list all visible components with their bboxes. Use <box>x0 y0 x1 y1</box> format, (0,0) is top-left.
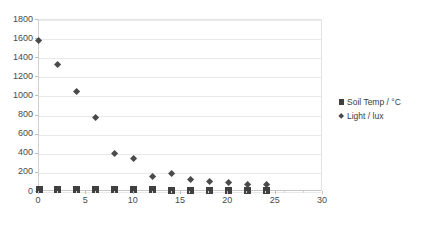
x-axis-tick-mark <box>227 191 228 194</box>
y-axis-tick-label: 800 <box>0 110 33 119</box>
data-point <box>92 186 99 193</box>
data-point <box>168 170 175 177</box>
chart-legend: Soil Temp / °CLight / lux <box>336 96 424 124</box>
x-axis-tick-mark <box>38 191 39 194</box>
x-axis-tick-label: 0 <box>23 196 53 205</box>
x-axis-tick-mark <box>133 191 134 194</box>
data-point <box>206 187 213 194</box>
legend-marker-swatch <box>338 113 344 119</box>
y-axis-tick-label: 1600 <box>0 34 33 43</box>
x-axis-tick-mark <box>275 191 276 194</box>
data-point <box>130 186 137 193</box>
diamond-marker-icon <box>336 114 347 118</box>
x-axis-tick-mark <box>85 191 86 194</box>
gridline <box>39 20 321 21</box>
data-point <box>206 178 213 185</box>
plot-area <box>38 19 322 191</box>
data-point <box>36 186 43 193</box>
scatter-chart: 020040060080010001200140016001800 051015… <box>0 0 425 227</box>
gridline <box>39 96 321 97</box>
x-axis-minor-tick <box>303 191 304 193</box>
gridline <box>39 39 321 40</box>
y-axis-tick-label: 1000 <box>0 91 33 100</box>
data-point <box>187 176 194 183</box>
x-axis-minor-tick <box>152 191 153 193</box>
x-axis-tick-mark <box>322 191 323 194</box>
legend-item[interactable]: Light / lux <box>336 110 424 122</box>
data-point <box>168 187 175 194</box>
x-axis-tick-label: 5 <box>70 196 100 205</box>
data-point <box>149 186 156 193</box>
x-axis-minor-tick <box>171 191 172 193</box>
x-axis-minor-tick <box>265 191 266 193</box>
y-axis-tick-label: 1200 <box>0 72 33 81</box>
x-axis-minor-tick <box>246 191 247 193</box>
y-axis-tick-label: 1400 <box>0 53 33 62</box>
data-point <box>130 155 137 162</box>
gridline <box>39 58 321 59</box>
x-axis-minor-tick <box>284 191 285 193</box>
x-axis-tick-label: 25 <box>260 196 290 205</box>
x-axis-tick-label: 15 <box>165 196 195 205</box>
legend-marker-swatch <box>339 99 345 105</box>
x-axis-minor-tick <box>95 191 96 193</box>
gridline <box>39 173 321 174</box>
data-point <box>54 61 61 68</box>
square-marker-icon <box>336 99 347 105</box>
gridline <box>39 77 321 78</box>
gridline <box>39 154 321 155</box>
y-axis-tick-label: 200 <box>0 167 33 176</box>
x-axis-minor-tick <box>208 191 209 193</box>
legend-label: Soil Temp / °C <box>347 97 401 107</box>
y-axis-tick-label: 1800 <box>0 15 33 24</box>
data-point <box>73 186 80 193</box>
x-axis-tick-label: 10 <box>118 196 148 205</box>
legend-label: Light / lux <box>347 111 383 121</box>
data-point <box>187 187 194 194</box>
data-point <box>111 150 118 157</box>
data-point <box>149 173 156 180</box>
x-axis-minor-tick <box>114 191 115 193</box>
data-point <box>54 186 61 193</box>
gridline <box>39 135 321 136</box>
legend-item[interactable]: Soil Temp / °C <box>336 96 424 108</box>
data-point <box>73 88 80 95</box>
y-axis-tick-label: 600 <box>0 129 33 138</box>
x-axis-minor-tick <box>57 191 58 193</box>
x-axis-minor-tick <box>189 191 190 193</box>
x-axis-tick-label: 30 <box>307 196 337 205</box>
data-point <box>225 179 232 186</box>
data-point <box>111 186 118 193</box>
y-axis-tick-label: 400 <box>0 148 33 157</box>
gridline <box>39 116 321 117</box>
x-axis-minor-tick <box>76 191 77 193</box>
x-axis-tick-label: 20 <box>212 196 242 205</box>
y-axis-tick-label: 0 <box>0 187 33 196</box>
data-point <box>225 187 232 194</box>
x-axis-tick-mark <box>180 191 181 194</box>
